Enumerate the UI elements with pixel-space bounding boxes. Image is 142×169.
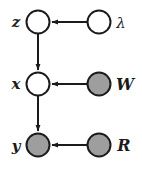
node-label-lambda: λ: [115, 14, 126, 32]
graphical-model-diagram: zλxWyR: [0, 0, 142, 169]
node-label-z: z: [11, 13, 21, 31]
graph-canvas: zλxWyR: [0, 0, 142, 169]
node-y-observed: [27, 134, 50, 157]
node-W-observed: [88, 73, 111, 96]
node-label-W: W: [116, 75, 136, 94]
node-x-latent: [27, 73, 50, 96]
node-R-observed: [88, 134, 111, 157]
node-label-R: R: [116, 136, 130, 155]
node-label-y: y: [11, 137, 22, 155]
node-z-latent: [27, 11, 50, 34]
node-label-x: x: [11, 75, 22, 93]
node-lambda-latent: [88, 11, 111, 34]
